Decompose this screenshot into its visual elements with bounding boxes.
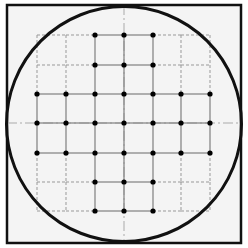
site-dot (121, 91, 126, 96)
site-dot (121, 32, 126, 37)
site-dot (121, 120, 126, 125)
site-dot (150, 150, 155, 155)
site-dot (150, 91, 155, 96)
site-dot (92, 208, 97, 213)
site-dot (150, 120, 155, 125)
site-dot (121, 208, 126, 213)
site-dot (178, 91, 183, 96)
site-dot (150, 32, 155, 37)
site-dot (150, 62, 155, 67)
site-dot (121, 62, 126, 67)
site-dot (207, 120, 212, 125)
site-dot (150, 208, 155, 213)
site-dot (92, 62, 97, 67)
site-dot (63, 91, 68, 96)
site-dot (92, 120, 97, 125)
site-dot (150, 179, 155, 184)
site-dot (92, 91, 97, 96)
site-dot (178, 150, 183, 155)
site-dot (178, 120, 183, 125)
site-dot (207, 150, 212, 155)
site-dot (34, 150, 39, 155)
site-dot (92, 150, 97, 155)
site-dot (92, 32, 97, 37)
site-dot (121, 150, 126, 155)
site-dot (121, 179, 126, 184)
site-dot (207, 91, 212, 96)
site-dot (34, 120, 39, 125)
site-dot (34, 91, 39, 96)
site-dot (63, 150, 68, 155)
wafer-map-diagram (0, 0, 248, 248)
site-dot (63, 120, 68, 125)
site-dot (92, 179, 97, 184)
diagram-svg (0, 0, 248, 248)
